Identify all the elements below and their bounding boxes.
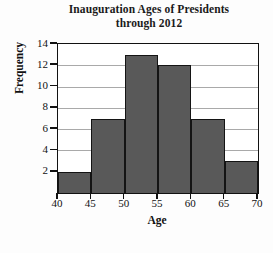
y-tick-mark-6: [50, 127, 57, 129]
x-tick-label-50: 50: [111, 198, 137, 209]
y-tick-mark-8: [50, 106, 57, 108]
x-tick-label-55: 55: [144, 198, 170, 209]
y-tick-mark-2: [50, 170, 57, 172]
y-tick-label-8: 8: [26, 101, 48, 112]
x-tick-label-60: 60: [177, 198, 203, 209]
y-tick-label-2: 2: [26, 165, 48, 176]
chart-title: Inauguration Ages of Presidents through …: [34, 2, 264, 30]
x-tick-label-65: 65: [211, 198, 237, 209]
bar-65-70: [225, 161, 258, 193]
y-tick-label-6: 6: [26, 123, 48, 134]
y-tick-label-12: 12: [26, 59, 48, 70]
bar-55-60: [158, 65, 191, 193]
y-tick-label-4: 4: [26, 144, 48, 155]
y-tick-label-14: 14: [26, 38, 48, 49]
bar-40-45: [58, 172, 91, 193]
chart-title-line-1: Inauguration Ages of Presidents: [34, 2, 264, 16]
x-tick-label-70: 70: [244, 198, 270, 209]
y-tick-mark-12: [50, 63, 57, 65]
y-axis-title: Frequency: [13, 13, 25, 123]
bar-60-65: [191, 119, 224, 194]
y-tick-label-10: 10: [26, 80, 48, 91]
histogram-chart: Inauguration Ages of Presidents through …: [0, 0, 273, 253]
x-axis-title: Age: [57, 214, 257, 226]
bar-50-55: [125, 55, 158, 193]
bar-45-50: [91, 119, 124, 194]
x-tick-label-45: 45: [77, 198, 103, 209]
y-tick-mark-14: [50, 42, 57, 44]
y-tick-mark-4: [50, 149, 57, 151]
plot-area: [57, 43, 259, 194]
x-tick-label-40: 40: [44, 198, 70, 209]
y-tick-mark-10: [50, 85, 57, 87]
plot-inner: [58, 44, 258, 193]
chart-title-line-2: through 2012: [34, 16, 264, 30]
